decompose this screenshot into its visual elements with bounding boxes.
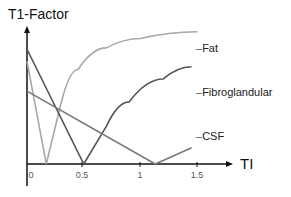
x-tick-0-5: 0.5: [76, 170, 89, 180]
x-tick-0: 0: [28, 170, 33, 180]
x-tick-1-5: 1.5: [191, 170, 204, 180]
series-fat-line: [27, 32, 197, 164]
legend-fat: –Fat: [196, 42, 218, 54]
t1-factor-chart: T1-Factor TI 0 0.5 1 1.5 –Fat –Fibroglan…: [0, 0, 291, 197]
y-axis-arrow-icon: [24, 26, 30, 33]
legend-fibroglandular: –Fibroglandular: [196, 86, 272, 98]
x-axis-label: TI: [240, 155, 253, 172]
series-fibroglandular-line: [27, 49, 192, 164]
x-axis-arrow-icon: [226, 161, 233, 167]
series-csf-line: [27, 91, 192, 164]
legend-csf: –CSF: [196, 130, 224, 142]
x-tick-1: 1: [137, 170, 142, 180]
y-axis-label: T1-Factor: [8, 6, 69, 22]
